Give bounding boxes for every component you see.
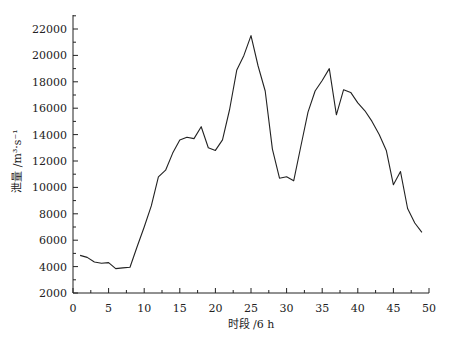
x-tick-label: 30 xyxy=(280,302,294,315)
axes xyxy=(73,15,429,293)
y-tick-label: 20000 xyxy=(32,49,67,62)
discharge-series-line xyxy=(80,36,422,269)
x-tick-label: 50 xyxy=(422,302,436,315)
y-tick-label: 8000 xyxy=(39,208,67,221)
y-tick-label: 4000 xyxy=(39,261,67,274)
y-tick-label: 10000 xyxy=(32,181,67,194)
y-tick-label: 14000 xyxy=(32,129,67,142)
y-tick-label: 18000 xyxy=(32,76,67,89)
x-tick-label: 20 xyxy=(208,302,222,315)
x-tick-label: 40 xyxy=(351,302,365,315)
x-tick-label: 0 xyxy=(70,302,77,315)
x-tick-label: 35 xyxy=(315,302,329,315)
x-axis-title: 时段 /6 h xyxy=(228,317,275,331)
x-tick-label: 10 xyxy=(137,302,151,315)
x-axis-ticks: 05101520253035404550 xyxy=(70,288,437,315)
discharge-line-chart: 05101520253035404550 2000400060008000100… xyxy=(0,0,449,339)
x-tick-label: 5 xyxy=(105,302,112,315)
y-tick-label: 2000 xyxy=(39,287,67,300)
y-tick-label: 12000 xyxy=(32,155,67,168)
x-tick-label: 45 xyxy=(386,302,400,315)
y-tick-label: 16000 xyxy=(32,102,67,115)
y-tick-label: 22000 xyxy=(32,23,67,36)
x-tick-label: 25 xyxy=(244,302,258,315)
y-axis-ticks: 2000400060008000100001200014000160001800… xyxy=(32,16,78,300)
y-tick-label: 6000 xyxy=(39,234,67,247)
x-tick-label: 15 xyxy=(173,302,187,315)
y-axis-title: 泄量 /m³·s⁻¹ xyxy=(11,129,24,192)
